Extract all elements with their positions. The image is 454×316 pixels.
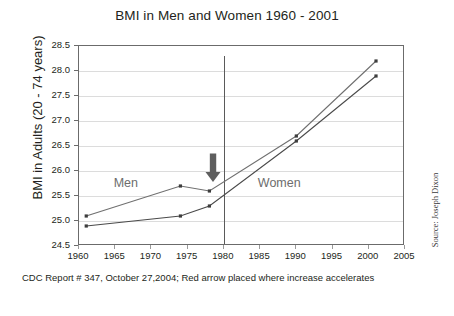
increase-accelerates-arrow [79,46,405,246]
x-tick-label: 1960 [58,250,98,261]
arrow-shaft [210,154,216,174]
series-label-women: Women [258,176,301,190]
x-tick-label: 1980 [203,250,243,261]
x-tick-label: 2000 [348,250,388,261]
arrow-head [206,172,221,182]
x-tick-label: 1995 [312,250,352,261]
series-label-men: Men [114,176,138,190]
plot-area: Men Women [78,45,404,245]
x-tick-label: 2005 [384,250,424,261]
x-tick-label: 1970 [130,250,170,261]
chart-figure: BMI in Men and Women 1960 - 2001 BMI in … [0,0,454,316]
x-tick-label: 1965 [94,250,134,261]
x-tick-label: 1985 [239,250,279,261]
x-tick-label: 1975 [167,250,207,261]
chart-caption: CDC Report # 347, October 27,2004; Red a… [22,272,422,283]
x-tick-label: 1990 [275,250,315,261]
